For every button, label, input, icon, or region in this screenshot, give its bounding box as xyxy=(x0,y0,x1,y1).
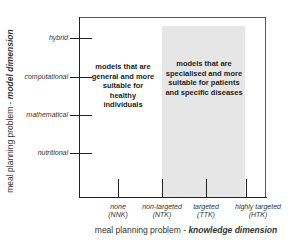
x-tick-highly-targeted xyxy=(246,179,247,197)
x-label-highly-targeted: highly targeted (HTK) xyxy=(226,203,290,219)
x-label-highly-targeted-abbr: (HTK) xyxy=(226,211,290,219)
general-models-text: models that are general and more suitabl… xyxy=(90,62,156,110)
y-axis-title-prefix: meal planning problem - xyxy=(5,99,15,193)
x-tick-none xyxy=(118,179,119,197)
y-tick-computational xyxy=(70,77,92,78)
x-tick-non-targeted xyxy=(162,179,163,197)
y-tick-hybrid xyxy=(70,38,92,39)
x-axis-title: meal planning problem - knowledge dimens… xyxy=(80,225,292,235)
y-axis-title-emphasis: model dimension xyxy=(5,29,15,99)
x-axis-line xyxy=(79,197,267,198)
x-tick-targeted xyxy=(206,179,207,197)
x-axis-title-emphasis: knowledge dimension xyxy=(188,225,277,235)
y-axis-title: meal planning problem - model dimension xyxy=(5,6,15,216)
y-tick-mathematical xyxy=(70,115,92,116)
y-axis-line xyxy=(79,17,80,198)
x-label-highly-targeted-text: highly targeted xyxy=(226,203,290,211)
specialised-models-text: models that are specialised and more sui… xyxy=(164,59,244,97)
y-tick-nutritional xyxy=(70,153,92,154)
x-axis-title-prefix: meal planning problem - xyxy=(95,225,189,235)
